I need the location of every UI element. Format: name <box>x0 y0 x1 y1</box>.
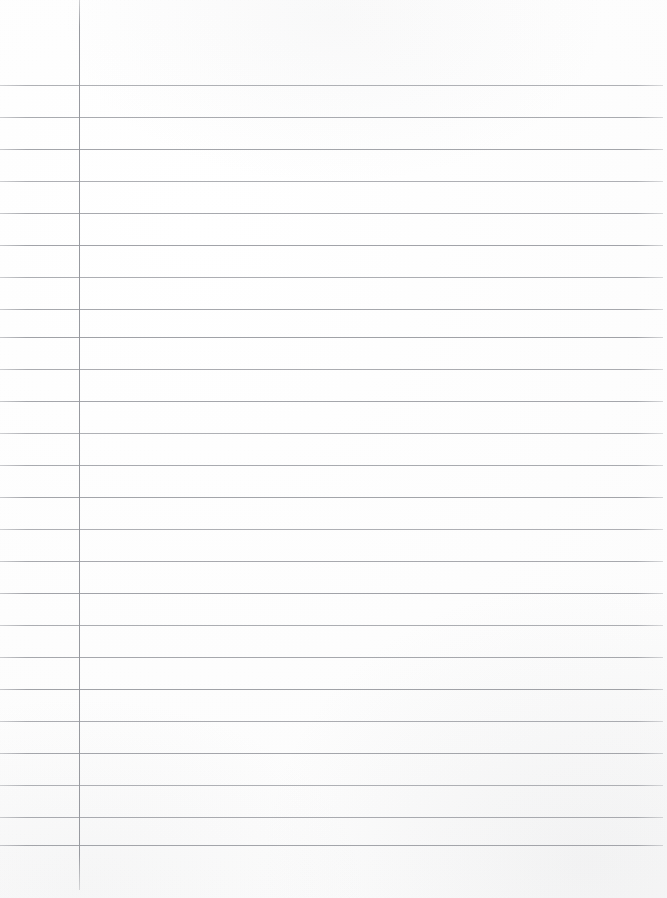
ruling-line <box>0 117 663 118</box>
ruling-lines-layer <box>0 0 667 898</box>
ruling-line <box>0 85 663 86</box>
ruling-line <box>0 689 663 690</box>
ruling-line <box>0 657 663 658</box>
ruling-line <box>0 465 663 466</box>
ruling-line <box>0 817 663 818</box>
margin-line-vertical <box>79 0 80 890</box>
ruling-line <box>0 561 663 562</box>
lined-paper-page <box>0 0 667 898</box>
ruling-line <box>0 401 663 402</box>
ruling-line <box>0 721 663 722</box>
ruling-line <box>0 369 663 370</box>
ruling-line <box>0 149 663 150</box>
ruling-line <box>0 529 663 530</box>
ruling-line <box>0 245 663 246</box>
ruling-line <box>0 213 663 214</box>
ruling-line <box>0 497 663 498</box>
ruling-line <box>0 337 663 338</box>
ruling-line <box>0 181 663 182</box>
ruling-line <box>0 593 663 594</box>
ruling-line <box>0 625 663 626</box>
ruling-line <box>0 753 663 754</box>
ruling-line <box>0 785 663 786</box>
ruling-line <box>0 433 663 434</box>
ruling-line <box>0 277 663 278</box>
ruling-line <box>0 309 663 310</box>
ruling-line <box>0 845 663 846</box>
